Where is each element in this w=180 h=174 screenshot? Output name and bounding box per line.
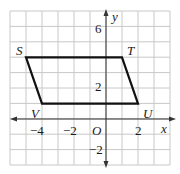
vertex-label-s: S [16,43,23,58]
coordinate-plane-figure: yxO−4−2262−2STUV [0,0,180,174]
x-tick-label: −4 [30,123,44,138]
y-axis-label: y [110,9,118,24]
y-tick-label: −2 [89,142,103,157]
vertex-label-u: U [143,106,154,121]
parallelogram-stuv [26,57,138,103]
vertex-label-t: T [127,43,135,58]
y-tick-label: 6 [95,21,102,36]
parallelogram-outline [26,57,138,103]
y-tick-label: 2 [95,79,102,94]
x-tick-label: −2 [63,123,77,138]
labels: yxO−4−2262−2STUV [16,9,167,157]
coordinate-plane: yxO−4−2262−2STUV [0,0,180,174]
x-axis-label: x [160,121,167,136]
x-axis-left-arrow-icon [10,117,17,122]
origin-label: O [92,123,102,138]
x-tick-label: 2 [135,123,142,138]
y-axis-up-arrow-icon [104,9,109,16]
x-axis-right-arrow-icon [169,117,176,122]
